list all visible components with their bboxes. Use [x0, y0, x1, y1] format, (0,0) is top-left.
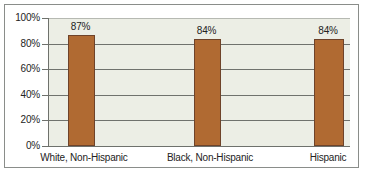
bar-value-black-non-hispanic: 84%	[197, 26, 216, 36]
bar-value-hispanic: 84%	[318, 26, 337, 36]
y-axis-label-40: 40%	[21, 90, 40, 100]
y-axis-label-0: 0%	[26, 141, 40, 151]
y-axis-label-60: 60%	[21, 64, 40, 74]
gridline-100	[49, 18, 350, 19]
x-axis-label-black-non-hispanic: Black, Non-Hispanic	[167, 152, 253, 163]
bar-black-non-hispanic[interactable]	[194, 39, 221, 147]
plot-area	[48, 18, 350, 147]
y-axis-label-80: 80%	[21, 39, 40, 49]
bar-white-non-hispanic[interactable]	[68, 35, 95, 146]
y-axis-label-100: 100%	[15, 13, 40, 23]
x-axis-label-hispanic: Hispanic	[310, 152, 347, 163]
y-axis-label-20: 20%	[21, 115, 40, 125]
bar-value-white-non-hispanic: 87%	[71, 22, 90, 32]
chart-card: 100% 80% 60% 40% 20% 0% 87% 84% 84% Whit…	[4, 4, 359, 168]
y-axis: 100% 80% 60% 40% 20% 0%	[5, 18, 48, 147]
x-axis-label-white-non-hispanic: White, Non-Hispanic	[40, 152, 127, 163]
bar-hispanic[interactable]	[314, 39, 344, 147]
